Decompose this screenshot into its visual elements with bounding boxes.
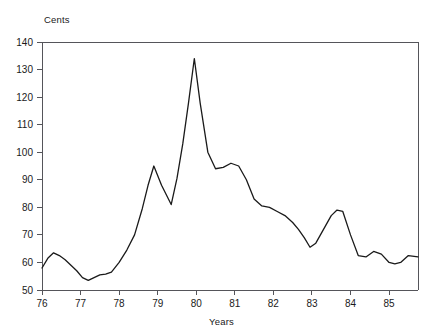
line-chart-plot: 5060708090100110120130140 76777879808182…: [0, 0, 442, 335]
x-axis-tick-label: 76: [36, 298, 48, 309]
y-axis-tick-label: 80: [22, 202, 34, 213]
chart-figure: Cents Years 5060708090100110120130140 76…: [0, 0, 442, 335]
x-axis-tick-label: 79: [152, 298, 164, 309]
x-axis-tick-label: 82: [268, 298, 280, 309]
x-axis: 76777879808182838485: [36, 290, 395, 309]
y-axis-tick-label: 90: [22, 174, 34, 185]
y-axis-tick-label: 50: [22, 285, 34, 296]
y-axis-tick-label: 130: [16, 64, 33, 75]
x-axis-tick-label: 77: [75, 298, 87, 309]
data-series: [42, 59, 418, 281]
y-axis: 5060708090100110120130140: [16, 37, 42, 296]
series-line: [42, 59, 418, 281]
y-axis-tick-label: 100: [16, 147, 33, 158]
x-axis-tick-label: 84: [345, 298, 357, 309]
x-axis-tick-label: 81: [229, 298, 241, 309]
x-axis-tick-label: 83: [306, 298, 318, 309]
x-axis-tick-label: 80: [191, 298, 203, 309]
y-axis-tick-label: 60: [22, 257, 34, 268]
plot-frame: [42, 42, 418, 290]
y-axis-tick-label: 70: [22, 229, 34, 240]
x-axis-tick-label: 85: [384, 298, 396, 309]
x-axis-tick-label: 78: [114, 298, 126, 309]
y-axis-tick-label: 120: [16, 92, 33, 103]
y-axis-tick-label: 140: [16, 37, 33, 48]
y-axis-tick-label: 110: [17, 119, 33, 130]
